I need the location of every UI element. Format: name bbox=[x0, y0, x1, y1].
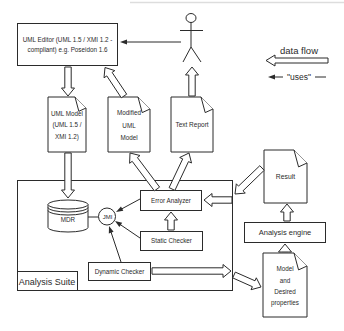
static-checker-node: Static Checker bbox=[140, 231, 203, 251]
legend-data-flow-arrow bbox=[266, 55, 328, 66]
error-analyzer-label: Error Analyzer bbox=[151, 196, 191, 206]
suite-to-model-desired-arrow bbox=[233, 272, 261, 290]
text-report-to-actor-arrow bbox=[186, 67, 199, 96]
actor-uses-uml-editor-arrow-head bbox=[120, 40, 127, 45]
error-analyzer-node: Error Analyzer bbox=[140, 190, 202, 211]
dynamic-checker-label: Dynamic Checker bbox=[95, 267, 145, 277]
analysis-engine-to-result-arrow bbox=[281, 204, 294, 221]
model-desired-to-analysis-engine-arrow bbox=[279, 244, 292, 252]
modified-model-to-uml-editor-arrow bbox=[104, 68, 127, 98]
actor-leg-icon bbox=[191, 47, 201, 62]
result-label: Result bbox=[265, 150, 306, 203]
analysis-engine-node: Analysis engine bbox=[244, 222, 326, 243]
jmi-label: JMI bbox=[98, 210, 117, 223]
modified-uml-model-label: Modified UML Model bbox=[109, 103, 149, 149]
text-report-label: Text Report bbox=[172, 97, 212, 152]
result-to-suite-arrow bbox=[235, 166, 264, 194]
diagram-canvas: UML Editor (UML 1.5 / XMI 1.2 - complian… bbox=[0, 0, 344, 331]
analysis-engine-label: Analysis engine bbox=[259, 228, 312, 237]
legend-uses-arrow-head bbox=[268, 75, 275, 80]
uml-editor-label: UML Editor (UML 1.5 / XMI 1.2 - complian… bbox=[18, 35, 117, 55]
analysis-suite-title-box: Analysis Suite bbox=[17, 271, 78, 291]
uml-editor-node: UML Editor (UML 1.5 / XMI 1.2 - complian… bbox=[17, 23, 118, 66]
analysis-suite-label: Analysis Suite bbox=[19, 277, 76, 287]
legend-uses-label: "uses" bbox=[283, 71, 315, 83]
uml-editor-to-uml-model-arrow bbox=[62, 67, 75, 96]
actor-head-icon bbox=[186, 14, 196, 23]
legend-data-flow-label: data flow bbox=[268, 44, 330, 56]
actor-leg-icon bbox=[183, 47, 191, 62]
model-desired-properties-label: Model and Desired properties bbox=[264, 259, 306, 313]
static-checker-label: Static Checker bbox=[151, 236, 192, 246]
mdr-label: MDR bbox=[48, 213, 88, 225]
dynamic-checker-node: Dynamic Checker bbox=[88, 262, 151, 281]
uml-model-label: UML Model (UML 1.5 / XMI 1.2) bbox=[49, 103, 85, 147]
